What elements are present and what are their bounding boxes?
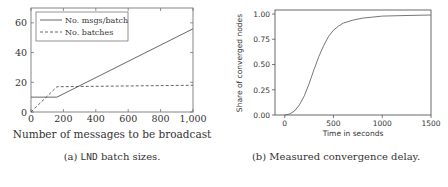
- y-tick-label: 20: [15, 77, 27, 88]
- x-tick-label: 800: [152, 113, 170, 124]
- caption-code: LND: [81, 151, 98, 162]
- x-tick-label: 1000: [373, 119, 392, 128]
- chart-b-axes: 0500100015000.000.250.500.751.00: [253, 10, 440, 128]
- y-tick-label: 40: [15, 47, 27, 58]
- x-tick-label: 400: [87, 113, 105, 124]
- x-tick-label: 1500: [421, 119, 440, 128]
- chart-b-ylabel: Share of converged nodes: [235, 14, 244, 112]
- plot-frame: [275, 10, 431, 115]
- y-tick-label: 0.25: [253, 86, 270, 95]
- x-tick-label: 600: [119, 113, 137, 124]
- x-tick-label: 200: [54, 113, 72, 124]
- series-line: [31, 85, 193, 112]
- caption-suffix: batch sizes.: [98, 151, 161, 162]
- legend-label: No. msgs/batch: [65, 16, 128, 25]
- caption-prefix: (a): [64, 151, 81, 162]
- chart-a-legend: No. msgs/batchNo. batches: [36, 12, 128, 41]
- x-tick-label: 0: [282, 119, 287, 128]
- y-tick-label: 0.00: [253, 111, 270, 120]
- chart-b-series: [285, 15, 431, 115]
- y-tick-label: 0.50: [253, 60, 270, 69]
- y-tick-label: 0.75: [253, 35, 270, 44]
- x-tick-label: 0: [28, 113, 34, 124]
- chart-a-xlabel: Number of messages to be broadcast: [13, 128, 212, 140]
- y-tick-label: 0: [21, 107, 27, 118]
- x-tick-label: 500: [326, 119, 341, 128]
- x-tick-label: 1,000: [179, 113, 206, 124]
- y-tick-label: 1.00: [253, 10, 270, 19]
- chart-a-caption: (a) LND batch sizes.: [0, 151, 224, 162]
- series-line: [285, 15, 431, 115]
- chart-b-caption: (b) Measured convergence delay.: [224, 151, 448, 162]
- legend-label: No. batches: [65, 28, 113, 37]
- chart-b-xlabel: Time in seconds: [322, 129, 384, 138]
- y-tick-label: 60: [15, 17, 27, 28]
